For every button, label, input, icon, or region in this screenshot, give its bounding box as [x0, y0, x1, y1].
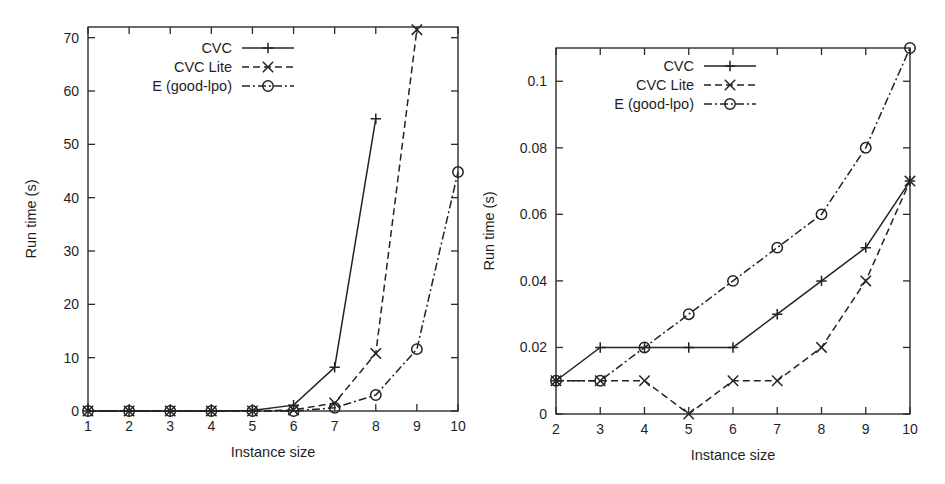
series-marker-circle	[772, 242, 782, 252]
y-axis-title: Run time (s)	[481, 192, 497, 271]
series-line-cvc-lite	[556, 181, 910, 414]
x-tick-label: 8	[372, 418, 380, 434]
legend-label-1: CVC Lite	[174, 59, 232, 75]
y-tick-label: 30	[63, 243, 79, 259]
series-marker-circle	[684, 309, 694, 319]
y-tick-label: 0	[71, 403, 79, 419]
legend-marker-plus	[263, 43, 273, 53]
series-marker-cross	[861, 276, 871, 286]
left-panel-svg: 12345678910010203040506070Instance sizeR…	[0, 0, 472, 484]
x-tick-label: 7	[331, 418, 339, 434]
y-tick-label: 0	[539, 406, 547, 422]
legend-label-2: E (good-lpo)	[614, 96, 694, 112]
y-tick-label: 10	[63, 350, 79, 366]
legend-label-0: CVC	[201, 40, 232, 56]
x-tick-label: 4	[641, 421, 649, 437]
x-tick-label: 2	[552, 421, 560, 437]
x-tick-label: 6	[290, 418, 298, 434]
legend-label-1: CVC Lite	[636, 77, 694, 93]
x-tick-label: 7	[773, 421, 781, 437]
y-tick-label: 0.06	[520, 206, 547, 222]
x-tick-label: 9	[862, 421, 870, 437]
series-marker-cross	[639, 376, 649, 386]
series-marker-plus	[684, 342, 694, 352]
x-tick-label: 1	[84, 418, 92, 434]
x-tick-label: 8	[818, 421, 826, 437]
legend-marker-plus	[725, 61, 735, 71]
series-marker-circle	[412, 344, 422, 354]
x-tick-label: 10	[902, 421, 918, 437]
left-panel: 12345678910010203040506070Instance sizeR…	[0, 0, 472, 484]
y-tick-label: 0.08	[520, 140, 547, 156]
series-marker-cross	[772, 376, 782, 386]
right-panel: 234567891000.020.040.060.080.1Instance s…	[472, 0, 944, 484]
x-tick-label: 6	[729, 421, 737, 437]
legend-label-2: E (good-lpo)	[152, 78, 232, 94]
series-line-e-good-lpo	[88, 172, 458, 411]
y-tick-label: 70	[63, 30, 79, 46]
x-tick-label: 3	[596, 421, 604, 437]
y-tick-label: 60	[63, 83, 79, 99]
plot-frame	[556, 48, 910, 414]
series-marker-cross	[371, 348, 381, 358]
x-axis-title: Instance size	[691, 447, 776, 463]
x-axis-title: Instance size	[231, 444, 316, 460]
x-tick-label: 2	[125, 418, 133, 434]
series-marker-cross	[816, 342, 826, 352]
legend-label-0: CVC	[663, 58, 694, 74]
series-marker-plus	[371, 114, 381, 124]
x-tick-label: 3	[166, 418, 174, 434]
y-tick-label: 50	[63, 136, 79, 152]
y-tick-label: 40	[63, 190, 79, 206]
figure-two-panel-runtime-charts: 12345678910010203040506070Instance sizeR…	[0, 0, 945, 484]
x-tick-label: 10	[450, 418, 466, 434]
y-tick-label: 0.02	[520, 339, 547, 355]
y-axis-title: Run time (s)	[23, 180, 39, 259]
x-tick-label: 5	[249, 418, 257, 434]
series-line-e-good-lpo	[556, 48, 910, 381]
x-tick-label: 9	[413, 418, 421, 434]
x-tick-label: 4	[207, 418, 215, 434]
x-tick-label: 5	[685, 421, 693, 437]
y-tick-label: 20	[63, 296, 79, 312]
series-line-cvc-lite	[88, 30, 417, 411]
y-tick-label: 0.04	[520, 273, 547, 289]
y-tick-label: 0.1	[528, 73, 548, 89]
right-panel-svg: 234567891000.020.040.060.080.1Instance s…	[472, 0, 945, 484]
